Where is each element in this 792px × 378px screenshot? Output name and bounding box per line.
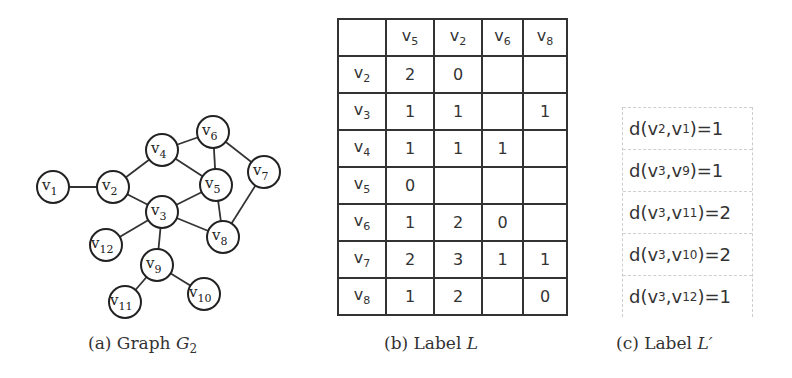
node-v5: v5 xyxy=(200,169,232,201)
table-row-header: v6 xyxy=(338,204,386,241)
caption-b: (b) Label L xyxy=(384,333,478,353)
table-row: v8120 xyxy=(338,278,567,315)
table-row-header: v3 xyxy=(338,93,386,130)
table-cell xyxy=(523,56,567,93)
table-cell xyxy=(523,130,567,167)
table-cell xyxy=(482,167,523,204)
caption-a: (a) Graph G2 xyxy=(88,333,197,356)
table-cell: 1 xyxy=(482,130,523,167)
caption-a-math: G xyxy=(176,333,190,353)
node-v9: v9 xyxy=(141,249,173,281)
table-cell xyxy=(434,167,482,204)
table-cell xyxy=(523,167,567,204)
table-cell: 1 xyxy=(482,241,523,278)
table-row-header: v4 xyxy=(338,130,386,167)
table-cell: 3 xyxy=(434,241,482,278)
table-cell: 1 xyxy=(386,278,434,315)
caption-c-text: (c) Label xyxy=(616,333,697,353)
caption-a-sub: 2 xyxy=(189,342,197,356)
label-prime-entry: d(v3,v10)=2 xyxy=(623,233,752,275)
label-prime-entry: d(v2,v1)=1 xyxy=(623,107,752,149)
node-v6: v6 xyxy=(197,116,229,148)
table-cell: 1 xyxy=(434,130,482,167)
caption-b-text: (b) Label xyxy=(384,333,467,353)
table-row-header: v5 xyxy=(338,167,386,204)
label-l-table: v5v2v6v8 v220v3111v4111v50v6120v72311v81… xyxy=(337,18,568,316)
node-v3: v3 xyxy=(146,196,178,228)
table-cell xyxy=(482,278,523,315)
node-v8: v8 xyxy=(207,221,239,253)
caption-a-text: (a) Graph xyxy=(88,333,176,353)
node-v7: v7 xyxy=(248,156,280,188)
table-cell: 2 xyxy=(386,56,434,93)
table-cell xyxy=(482,93,523,130)
table-header-row: v5v2v6v8 xyxy=(338,19,567,56)
graph-g2-diagram: v1v2v3v4v5v6v7v8v9v10v11v12 xyxy=(0,0,320,330)
label-l-prime-list: d(v2,v1)=1d(v3,v9)=1d(v3,v11)=2d(v3,v10)… xyxy=(622,107,753,317)
table-cell: 0 xyxy=(482,204,523,241)
table-row-header: v2 xyxy=(338,56,386,93)
caption-b-math: L xyxy=(467,333,478,353)
table-cell xyxy=(482,56,523,93)
table-column-header: v6 xyxy=(482,19,523,56)
label-prime-entry: d(v3,v11)=2 xyxy=(623,191,752,233)
table-cell: 1 xyxy=(523,93,567,130)
table-cell: 1 xyxy=(523,241,567,278)
node-v2: v2 xyxy=(97,171,129,203)
graph-panel: v1v2v3v4v5v6v7v8v9v10v11v12 xyxy=(0,0,320,378)
table-cell: 2 xyxy=(434,278,482,315)
table-cell: 0 xyxy=(434,56,482,93)
table-cell: 1 xyxy=(386,93,434,130)
table-row: v4111 xyxy=(338,130,567,167)
table-cell: 1 xyxy=(386,204,434,241)
table-row-header: v7 xyxy=(338,241,386,278)
table-row: v3111 xyxy=(338,93,567,130)
table-cell: 1 xyxy=(386,130,434,167)
node-v10: v10 xyxy=(188,278,220,310)
table-row: v72311 xyxy=(338,241,567,278)
table-row-header: v8 xyxy=(338,278,386,315)
node-v1: v1 xyxy=(37,171,69,203)
node-v4: v4 xyxy=(146,134,178,166)
table-cell: 2 xyxy=(386,241,434,278)
table-row: v6120 xyxy=(338,204,567,241)
table-column-header: v2 xyxy=(434,19,482,56)
label-prime-entry: d(v3,v12)=1 xyxy=(623,275,752,317)
table-column-header: v8 xyxy=(523,19,567,56)
table-cell: 0 xyxy=(523,278,567,315)
table-cell: 1 xyxy=(434,93,482,130)
node-v12: v12 xyxy=(90,229,122,261)
table-cell: 2 xyxy=(434,204,482,241)
node-v11: v11 xyxy=(109,286,141,318)
caption-c: (c) Label L′ xyxy=(616,333,713,353)
table-row: v50 xyxy=(338,167,567,204)
table-column-header: v5 xyxy=(386,19,434,56)
table-cell xyxy=(523,204,567,241)
table-row: v220 xyxy=(338,56,567,93)
caption-c-math: L′ xyxy=(697,333,712,353)
label-prime-entry: d(v3,v9)=1 xyxy=(623,149,752,191)
table-corner-cell xyxy=(338,19,386,56)
table-cell: 0 xyxy=(386,167,434,204)
